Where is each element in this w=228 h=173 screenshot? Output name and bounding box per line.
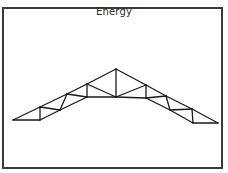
truss-member [67, 84, 87, 94]
truss-member [87, 69, 116, 84]
truss-member [13, 107, 40, 120]
truss-member [40, 110, 60, 120]
roof-truss-diagram [0, 0, 228, 173]
truss-member [116, 85, 146, 97]
truss-member [67, 94, 87, 97]
truss-member [146, 85, 166, 96]
truss-member [170, 110, 193, 123]
truss-member [40, 94, 67, 107]
truss-member [170, 109, 192, 110]
truss-member [116, 97, 146, 98]
truss-member [40, 107, 60, 110]
truss-member [192, 109, 218, 123]
truss-member [87, 84, 116, 97]
truss-member [146, 96, 166, 98]
truss-member [116, 69, 146, 85]
truss-member [166, 96, 192, 109]
truss-member [146, 98, 170, 110]
truss-member [192, 109, 193, 123]
truss-member [60, 97, 87, 110]
